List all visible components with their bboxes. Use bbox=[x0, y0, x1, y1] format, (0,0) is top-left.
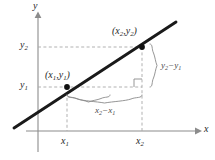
rise-brace-label: y2−y1 bbox=[161, 61, 181, 71]
x-axis-label: x bbox=[204, 124, 208, 134]
point-1-label: (x1,y1) bbox=[45, 70, 70, 82]
y-tick-label-y2: y2 bbox=[20, 40, 28, 52]
y-tick-y2-sub: 2 bbox=[24, 44, 27, 51]
run-brace-full bbox=[67, 95, 142, 103]
y-axis-label: y bbox=[33, 1, 37, 11]
x-tick-x2-sub: 2 bbox=[140, 140, 143, 147]
guide-lines-group bbox=[38, 47, 142, 131]
point-2-marker bbox=[139, 44, 145, 50]
x-axis-arrowhead bbox=[195, 128, 202, 135]
x-tick-x1-sub: 1 bbox=[65, 140, 68, 147]
y-axis-arrowhead bbox=[35, 12, 42, 19]
point-1-close-paren: ) bbox=[67, 69, 70, 80]
point-1-marker bbox=[64, 84, 70, 90]
slope-diagram-figure: y x y2 y1 x1 x2 (x1,y1) (x2,y2) y2−y1 x2… bbox=[0, 0, 215, 160]
right-angle-marker bbox=[134, 79, 142, 87]
run-subtrahend-sub: 1 bbox=[112, 110, 115, 116]
run-brace-label: x2−x1 bbox=[95, 106, 115, 116]
diagram-canvas bbox=[0, 0, 215, 160]
y-tick-label-y1: y1 bbox=[20, 80, 28, 92]
x-tick-label-x2: x2 bbox=[136, 136, 144, 148]
rise-subtrahend-sub: 1 bbox=[178, 65, 181, 71]
rise-brace bbox=[150, 44, 157, 87]
point-2-close-paren: ) bbox=[134, 25, 137, 36]
x-tick-label-x1: x1 bbox=[61, 136, 69, 148]
y-tick-y1-sub: 1 bbox=[24, 84, 27, 91]
point-2-label: (x2,y2) bbox=[112, 26, 137, 38]
